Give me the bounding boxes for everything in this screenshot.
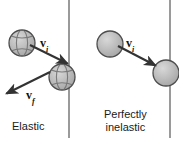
elastic-vi-arrow — [30, 45, 68, 64]
inelastic-stuck-ball — [153, 60, 179, 86]
inelastic-vi-arrow — [118, 46, 156, 66]
elastic-vf-subscript: f — [32, 97, 35, 106]
caption-elastic: Elastic — [12, 120, 44, 132]
inelastic-incoming-ball — [97, 31, 123, 57]
caption-perfectly-inelastic: Perfectly inelastic — [104, 108, 147, 134]
panel-elastic — [7, 0, 76, 138]
collision-diagram: vi vf vi Elastic Perfectly inelastic — [0, 0, 179, 143]
elastic-vi-label: vi — [40, 36, 48, 52]
elastic-incoming-ball — [9, 30, 35, 56]
inelastic-vi-subscript: i — [132, 45, 134, 54]
elastic-vf-label: vf — [26, 88, 35, 104]
caption-perfectly-inelastic-line2: inelastic — [104, 121, 147, 134]
inelastic-vi-label: vi — [126, 36, 134, 52]
elastic-vi-subscript: i — [46, 45, 48, 54]
elastic-contact-ball — [49, 64, 75, 90]
caption-perfectly-inelastic-line1: Perfectly — [104, 108, 147, 121]
